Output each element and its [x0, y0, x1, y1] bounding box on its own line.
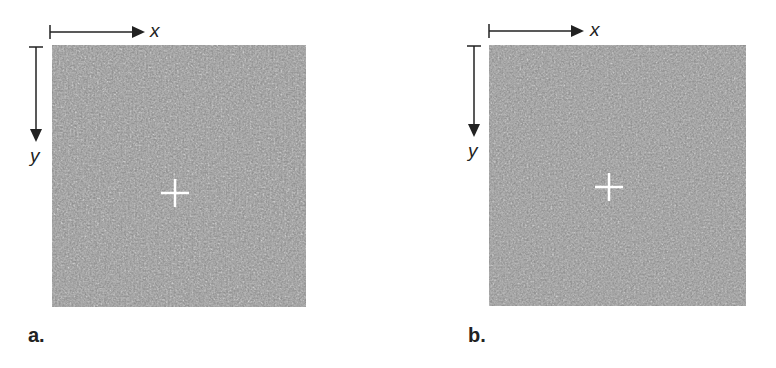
panel-b: x y b. [388, 0, 776, 368]
x-axis-arrow-icon [48, 22, 148, 42]
crosshair-icon [161, 179, 189, 207]
y-axis-label: y [468, 140, 478, 162]
x-axis-label: x [150, 20, 160, 42]
panel-label-b: b. [468, 324, 486, 347]
crosshair-icon [595, 173, 623, 201]
speckle-image-a [52, 45, 306, 307]
y-axis-arrow-icon [464, 44, 484, 139]
x-axis-label: x [590, 19, 600, 41]
panel-a: x y a. [0, 0, 388, 368]
x-axis-arrow-icon [487, 21, 587, 41]
y-axis-label: y [30, 145, 40, 167]
y-axis-arrow-icon [26, 45, 46, 145]
panel-label-a: a. [28, 324, 45, 347]
